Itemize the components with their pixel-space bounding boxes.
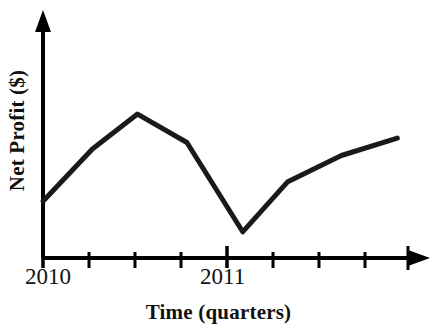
chart-container: Net Profit ($) Time (quarters) 2010 2011 xyxy=(0,0,437,336)
net-profit-line-series xyxy=(43,114,397,232)
x-tick-label-2010: 2010 xyxy=(25,264,71,290)
y-axis-title: Net Profit ($) xyxy=(0,0,36,260)
y-axis-arrowhead-icon xyxy=(35,10,51,32)
x-tick-label-2011: 2011 xyxy=(200,264,245,290)
x-axis-title-text: Time (quarters) xyxy=(146,300,292,324)
y-axis-title-text: Net Profit ($) xyxy=(6,69,31,190)
y-axis xyxy=(35,10,51,258)
x-axis-arrowhead-icon xyxy=(408,250,430,266)
x-axis-title: Time (quarters) xyxy=(0,300,437,325)
